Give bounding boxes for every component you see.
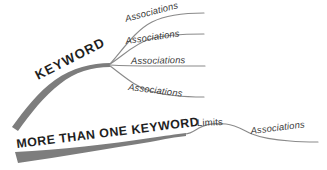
- keyword-thick-branch: [12, 63, 110, 131]
- keyword-branch-group: [12, 63, 110, 131]
- association-label-2: Associations: [124, 27, 181, 46]
- association-label-1: Associations: [123, 0, 180, 24]
- lower-association-label: Associations: [249, 118, 306, 136]
- diagram-canvas: KEYWORD MORE THAN ONE KEYWORD Associatio…: [0, 0, 327, 170]
- limits-label: Limits: [197, 116, 223, 128]
- mind-map-diagram: KEYWORD MORE THAN ONE KEYWORD Associatio…: [0, 0, 327, 170]
- association-label-3: Associations: [130, 54, 186, 66]
- association-label-4: Associations: [127, 81, 184, 99]
